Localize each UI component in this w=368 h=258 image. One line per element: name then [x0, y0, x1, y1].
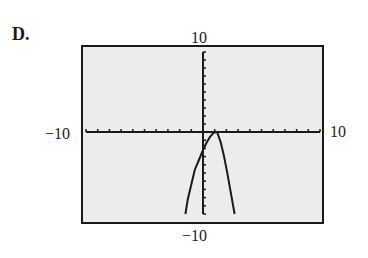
graph-screen — [0, 0, 368, 258]
